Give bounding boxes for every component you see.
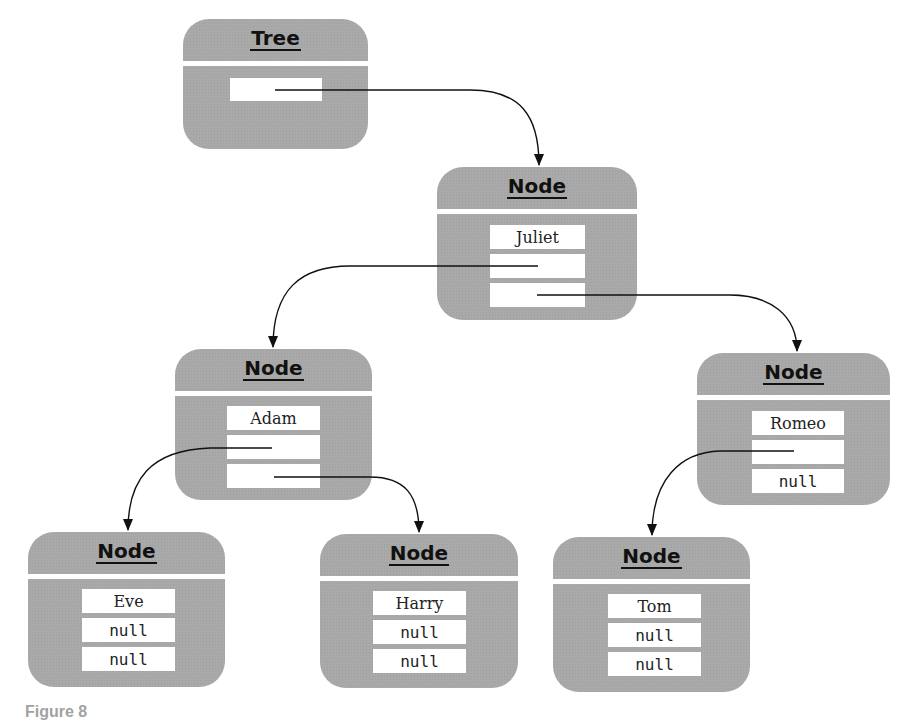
data-field: Tom — [608, 594, 701, 618]
left-field — [490, 254, 585, 278]
node-title-label: Node — [507, 175, 567, 199]
title-separator — [28, 574, 225, 579]
title-separator — [437, 209, 637, 214]
title-separator — [183, 61, 368, 66]
data-field: Adam — [227, 406, 320, 430]
tree-object: Tree — [183, 19, 368, 149]
figure-caption: Figure 8 — [25, 703, 87, 721]
node-title-label: Node — [243, 357, 303, 381]
node-adam: Node Adam — [175, 349, 372, 500]
node-juliet: Node Juliet — [437, 167, 637, 320]
left-field: null — [608, 623, 701, 647]
data-field: Juliet — [490, 225, 585, 249]
title-separator — [175, 391, 372, 396]
node-eve: Node Eve null null — [28, 532, 225, 687]
right-field: null — [752, 469, 844, 493]
left-field — [227, 435, 320, 459]
node-title: Node — [697, 353, 890, 393]
node-harry: Node Harry null null — [320, 534, 518, 688]
node-title: Node — [553, 537, 750, 577]
data-field: Harry — [373, 591, 466, 615]
right-field: null — [608, 652, 701, 676]
right-field — [227, 464, 320, 488]
node-title-label: Node — [96, 540, 156, 564]
node-tom: Node Tom null null — [553, 537, 750, 692]
left-field: null — [82, 618, 175, 642]
tree-title-label: Tree — [250, 27, 300, 51]
node-title-label: Node — [621, 545, 681, 569]
title-separator — [697, 395, 890, 400]
left-field — [752, 440, 844, 464]
node-title: Node — [28, 532, 225, 572]
node-title: Node — [175, 349, 372, 389]
node-title: Node — [437, 167, 637, 207]
right-field — [490, 283, 585, 307]
right-field: null — [82, 647, 175, 671]
data-field: Romeo — [752, 411, 844, 435]
node-title-label: Node — [389, 542, 449, 566]
node-title: Node — [320, 534, 518, 574]
node-romeo: Node Romeo null — [697, 353, 890, 505]
tree-root-field — [230, 78, 322, 101]
title-separator — [320, 576, 518, 581]
node-title-label: Node — [763, 361, 823, 385]
title-separator — [553, 579, 750, 584]
data-field: Eve — [82, 589, 175, 613]
tree-title: Tree — [183, 19, 368, 59]
left-field: null — [373, 620, 466, 644]
right-field: null — [373, 649, 466, 673]
